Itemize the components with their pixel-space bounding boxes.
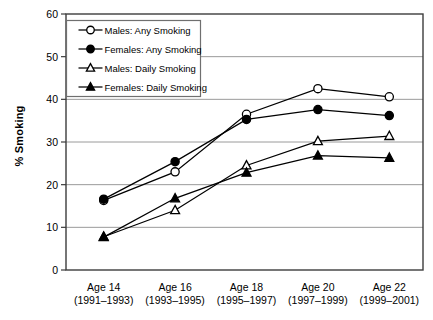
legend-item-label: Females: Any Smoking: [105, 45, 202, 55]
legend-item-label: Females: Daily Smoking: [105, 83, 207, 93]
x-axis-tick-label: Age 22(1999–2001): [341, 281, 433, 306]
x-axis-tick-label-age: Age 20: [301, 281, 334, 293]
x-axis-tick-label-years: (1999–2001): [341, 294, 433, 307]
filled-circle-marker: [314, 105, 322, 113]
filled-circle-marker: [87, 45, 95, 53]
y-axis-title: % Smoking: [13, 86, 25, 186]
x-axis-tick-label-age: Age 16: [158, 281, 191, 293]
y-axis-tick-label: 40: [32, 94, 58, 105]
legend-item-label: Males: Daily Smoking: [105, 64, 196, 74]
series-females-any-smoking: [100, 105, 394, 203]
open-triangle-marker: [171, 205, 180, 213]
open-circle-marker: [171, 168, 179, 176]
x-axis-tick-label-age: Age 14: [87, 281, 120, 293]
y-axis-tick-label: 50: [32, 52, 58, 63]
plot-canvas: [0, 0, 433, 320]
y-axis-tick-label: 60: [32, 9, 58, 20]
y-axis-tick-label: 20: [32, 180, 58, 191]
series-males-any-smoking: [100, 85, 394, 205]
y-axis-tick-label: 10: [32, 222, 58, 233]
series-line: [104, 89, 390, 201]
x-axis-tick-label-age: Age 22: [373, 281, 406, 293]
series-line: [104, 136, 390, 237]
data-series: [99, 85, 394, 241]
series-males-daily-smoking: [99, 131, 394, 240]
smoking-prevalence-line-chart: % Smoking 0102030405060 Age 14(1991–1993…: [0, 0, 433, 320]
open-circle-marker: [314, 85, 322, 93]
open-triangle-marker: [385, 131, 394, 139]
filled-circle-marker: [242, 115, 250, 123]
y-axis-tick-label: 0: [32, 265, 58, 276]
x-axis-tick-label-age: Age 18: [230, 281, 263, 293]
open-circle-marker: [385, 93, 393, 101]
filled-circle-marker: [385, 111, 393, 119]
filled-circle-marker: [100, 195, 108, 203]
filled-circle-marker: [171, 158, 179, 166]
open-circle-marker: [87, 26, 95, 34]
legend-item-label: Males: Any Smoking: [105, 26, 191, 36]
y-axis-tick-label: 30: [32, 137, 58, 148]
filled-triangle-marker: [313, 151, 322, 159]
